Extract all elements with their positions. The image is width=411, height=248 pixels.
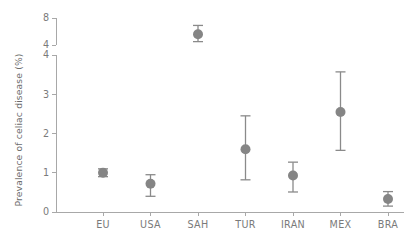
data-marker [98, 168, 108, 178]
data-marker [288, 170, 298, 180]
y-tick-label: 1 [43, 167, 49, 178]
data-marker [383, 194, 393, 204]
celiac-prevalence-errorbar-chart: Prevalence of celiac disease (%)0123448E… [0, 0, 411, 248]
x-tick-label-usa: USA [140, 219, 161, 230]
x-tick-label-eu: EU [96, 219, 110, 230]
y-tick-label: 2 [43, 128, 49, 139]
data-marker [241, 144, 251, 154]
x-tick-label-tur: TUR [234, 219, 255, 230]
data-marker [336, 107, 346, 117]
y-tick-label: 4 [43, 39, 49, 50]
data-point-eu [98, 168, 108, 178]
y-tick-label: 4 [43, 49, 49, 60]
y-tick-label: 0 [43, 206, 49, 217]
x-tick-label-iran: IRAN [281, 219, 305, 230]
y-tick-label: 3 [43, 89, 49, 100]
data-point-sah [193, 25, 203, 41]
y-axis-title: Prevalence of celiac disease (%) [13, 53, 24, 206]
data-point-bra [383, 192, 393, 207]
data-point-mex [336, 72, 346, 151]
x-tick-label-bra: BRA [378, 219, 398, 230]
data-point-tur [241, 116, 251, 180]
data-point-iran [288, 162, 298, 192]
x-tick-label-mex: MEX [330, 219, 352, 230]
data-point-usa [146, 175, 156, 197]
chart-container: Prevalence of celiac disease (%)0123448E… [0, 0, 411, 248]
data-marker [193, 29, 203, 39]
x-tick-label-sah: SAH [188, 219, 209, 230]
data-marker [146, 179, 156, 189]
y-tick-label: 8 [43, 12, 49, 23]
